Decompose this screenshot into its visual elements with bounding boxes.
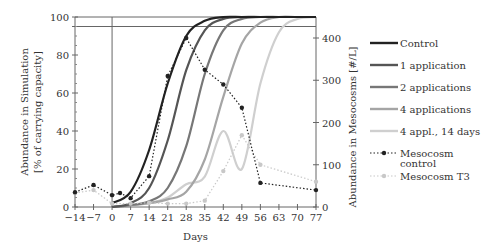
x-tick-label: 14 <box>143 212 156 223</box>
x-tick-label: 35 <box>198 212 211 223</box>
series-mesocosm-t3 <box>73 133 318 206</box>
legend-label: Control <box>400 38 438 49</box>
legend-item: Mesocosm T3 <box>370 171 470 182</box>
dotted-line <box>75 38 316 198</box>
legend-item: 4 appl., 14 days <box>370 126 480 137</box>
data-point <box>314 179 318 183</box>
series-1-application <box>112 17 316 207</box>
data-point <box>91 188 95 192</box>
y-tick-label-right: 0 <box>322 202 328 213</box>
legend-marker <box>382 174 386 178</box>
series-2-applications <box>112 17 316 207</box>
legend-item: 4 applications <box>370 104 471 115</box>
x-tick-label: −14 <box>64 212 85 223</box>
data-point <box>184 201 188 205</box>
y-tick-label-right: 200 <box>322 118 341 129</box>
legend-item: 1 application <box>370 60 467 71</box>
data-point <box>221 82 225 86</box>
data-point <box>240 133 244 137</box>
data-point <box>128 201 132 205</box>
legend-label: 1 application <box>400 60 467 71</box>
data-point <box>258 163 262 167</box>
y-axis-label-left: Abundance in Simulation <box>19 48 30 177</box>
data-point <box>203 67 207 71</box>
y-axis-label-right: Abundance in Mesocosms [#/L] <box>347 46 358 208</box>
data-point <box>91 183 95 187</box>
series-4-appl-14-days <box>112 17 316 207</box>
data-point <box>314 188 318 192</box>
legend-label: 2 applications <box>400 82 471 93</box>
legend-marker <box>382 151 386 155</box>
x-tick-label: 77 <box>310 212 323 223</box>
y-tick-label-left: 60 <box>56 88 69 99</box>
x-tick-label: 56 <box>254 212 267 223</box>
legend-label-line2: control <box>400 158 436 169</box>
data-point <box>128 196 132 200</box>
data-point <box>110 201 114 205</box>
x-tick-label: 49 <box>235 212 248 223</box>
series-control <box>112 17 316 203</box>
x-tick-label: 7 <box>127 212 133 223</box>
x-tick-label: 42 <box>217 212 230 223</box>
x-tick-label: 21 <box>161 212 174 223</box>
x-tick-label: 70 <box>291 212 304 223</box>
chart: 0204060801000100200300400−14−70714212835… <box>0 0 489 249</box>
y-tick-label-left: 40 <box>56 126 69 137</box>
y-tick-label-left: 20 <box>56 164 69 175</box>
x-tick-label: 28 <box>180 212 193 223</box>
y-axis-label-left-line2: [% of carrying capacity] <box>32 51 43 173</box>
x-tick-label: −7 <box>86 212 101 223</box>
y-tick-label-left: 100 <box>50 12 69 23</box>
x-tick-label: 63 <box>273 212 286 223</box>
data-point <box>147 201 151 205</box>
y-tick-label-right: 400 <box>322 33 341 44</box>
legend-label: 4 appl., 14 days <box>400 126 480 137</box>
legend-item: 2 applications <box>370 82 471 93</box>
legend-label: Mesocosm T3 <box>400 171 470 182</box>
legend-label: 4 applications <box>400 104 471 115</box>
chart-svg: 0204060801000100200300400−14−70714212835… <box>0 0 489 249</box>
y-tick-label-right: 300 <box>322 75 341 86</box>
legend-item: Control <box>370 38 438 49</box>
y-tick-label-right: 100 <box>322 160 341 171</box>
data-point <box>258 181 262 185</box>
series-mesocosm-control <box>73 36 318 201</box>
data-point <box>240 106 244 110</box>
data-point <box>221 169 225 173</box>
data-point <box>165 201 169 205</box>
data-point <box>118 191 122 195</box>
series-4-applications <box>112 17 316 207</box>
legend-item: Mesocosmcontrol <box>370 148 454 169</box>
x-axis-label: Days <box>183 231 208 242</box>
data-point <box>203 198 207 202</box>
data-point <box>110 193 114 197</box>
x-tick-label: 0 <box>109 212 115 223</box>
y-tick-label-left: 80 <box>56 50 69 61</box>
data-point <box>165 74 169 78</box>
data-point <box>147 174 151 178</box>
data-point <box>73 190 77 194</box>
data-point <box>184 36 188 40</box>
